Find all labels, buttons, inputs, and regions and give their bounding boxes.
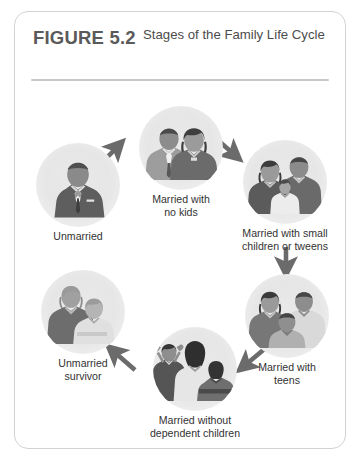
stage-label-unmarried-survivor: Unmarried survivor [29, 357, 137, 382]
stage-node-married-with-teens: Married with teens [233, 274, 341, 386]
stage-node-small-children: Married with small children or tweens [231, 140, 339, 252]
family-life-cycle-diagram: Unmarried [15, 12, 347, 450]
stage-label-married-no-kids: Married with no kids [127, 193, 235, 218]
stage-label-line: Married with [127, 193, 235, 206]
stage-node-unmarried-survivor: Unmarried survivor [29, 270, 137, 382]
figure-card: FIGURE 5.2 Stages of the Family Life Cyc… [14, 11, 346, 449]
stage-label-line: Married with small [231, 227, 339, 240]
portrait-couple-icon [139, 106, 223, 190]
stage-node-unmarried: Unmarried [24, 143, 132, 243]
stage-node-without-dependent-children: Married without dependent children [141, 327, 249, 439]
portrait-elderly-couple-icon [41, 270, 125, 354]
stage-label-line: Married with [233, 361, 341, 374]
portrait-couple-with-baby-icon [243, 140, 327, 224]
stage-label-line: teens [233, 374, 341, 387]
stage-label-line: Married without [141, 414, 249, 427]
stage-label-small-children: Married with small children or tweens [231, 227, 339, 252]
stage-label-without-dependent-children: Married without dependent children [141, 414, 249, 439]
stage-label-line: no kids [127, 206, 235, 219]
stage-label-line: survivor [29, 370, 137, 383]
portrait-adults-with-grown-children-icon [153, 327, 237, 411]
stage-label-unmarried: Unmarried [24, 230, 132, 243]
portrait-single-man-in-suit-icon [36, 143, 120, 227]
portrait-family-with-teen-icon [245, 274, 329, 358]
stage-label-line: Unmarried [29, 357, 137, 370]
stage-node-married-no-kids: Married with no kids [127, 106, 235, 218]
stage-label-line: dependent children [141, 427, 249, 440]
stage-label-line: children or tweens [231, 240, 339, 253]
stage-label-married-with-teens: Married with teens [233, 361, 341, 386]
